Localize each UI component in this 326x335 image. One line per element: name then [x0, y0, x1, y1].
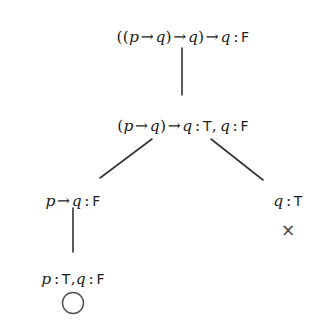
token-:: :: [192, 117, 202, 135]
token-F: F: [241, 29, 249, 45]
tableau-node-right-branch: q:T: [273, 194, 302, 210]
token-q: q: [220, 117, 230, 135]
token-p: p: [45, 192, 55, 210]
token-F: F: [96, 271, 104, 287]
token-q: q: [188, 28, 198, 46]
token-:: :: [86, 270, 96, 288]
token-F: F: [92, 193, 100, 209]
edge-level2-to-left: [100, 139, 152, 178]
token-q: q: [150, 117, 160, 135]
token-T: T: [294, 193, 303, 209]
token-): ): [198, 28, 204, 46]
edge-level2-to-right: [211, 139, 263, 180]
token-→: →: [166, 117, 182, 135]
token-p: p: [123, 117, 133, 135]
token-): ): [160, 117, 166, 135]
token-q: q: [76, 270, 86, 288]
closed-branch-marker: ×: [281, 222, 295, 239]
tableau-node-root: ((p→q)→q)→q:F: [117, 30, 250, 46]
token-F: F: [240, 118, 248, 134]
token-q: q: [155, 28, 165, 46]
token-→: →: [139, 28, 155, 46]
token-p: p: [41, 270, 51, 288]
token-p: p: [129, 28, 139, 46]
token-q: q: [273, 192, 283, 210]
token-→: →: [172, 28, 188, 46]
tableau-node-left-branch: p→q:F: [45, 194, 100, 210]
token-:: :: [283, 192, 293, 210]
tableau-diagram: ((p→q)→q)→q:F(p→q)→q:T,q:Fp→q:Fq:Tp:T,q:…: [0, 0, 326, 335]
token-→: →: [204, 28, 220, 46]
open-branch-marker: [63, 293, 84, 314]
tableau-node-level2: (p→q)→q:T,q:F: [117, 119, 249, 135]
token-((: ((: [117, 28, 130, 46]
token-,: ,: [212, 117, 217, 135]
token-:: :: [231, 28, 241, 46]
token-:: :: [230, 117, 240, 135]
token-q: q: [72, 192, 82, 210]
token-q: q: [182, 117, 192, 135]
token-→: →: [56, 192, 72, 210]
token-:: :: [51, 270, 61, 288]
tableau-node-leaf: p:T,q:F: [41, 272, 104, 288]
token-:: :: [82, 192, 92, 210]
token-→: →: [134, 117, 150, 135]
token-T: T: [203, 118, 212, 134]
token-q: q: [221, 28, 231, 46]
